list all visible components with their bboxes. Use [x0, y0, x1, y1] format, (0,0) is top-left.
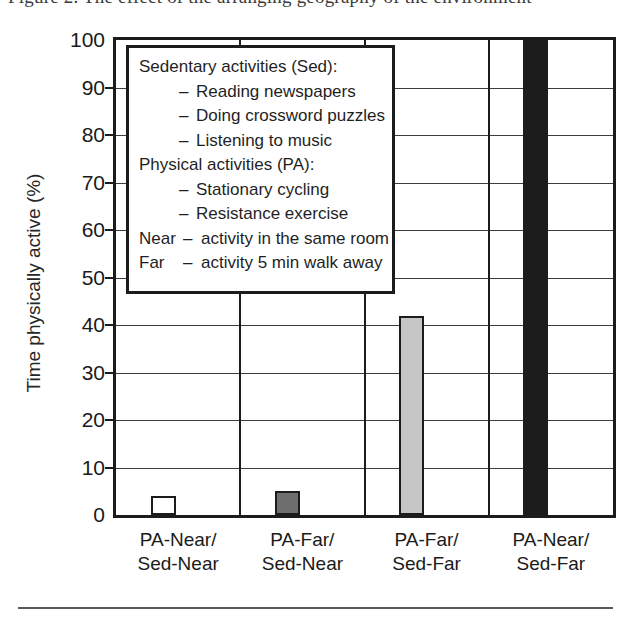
x-axis-label-2-line1: PA-Far/	[365, 528, 489, 552]
x-axis-label-3: PA-Near/Sed-Far	[489, 528, 613, 576]
legend-sedentary-item-2: –Listening to music	[129, 129, 392, 154]
x-axis-label-3-line1: PA-Near/	[489, 528, 613, 552]
bottom-separator-rule	[18, 607, 613, 609]
legend-definition-near: Near–activity in the same room	[129, 227, 392, 252]
legend-definition-near-term: Near	[139, 227, 183, 252]
y-tick-label-70: 70	[35, 172, 105, 193]
x-axis-label-1-line1: PA-Far/	[240, 528, 364, 552]
y-tick-label-30: 30	[35, 362, 105, 383]
figure-caption-text: Figure 2. The effect of the arranging ge…	[8, 0, 624, 8]
x-axis-label-2-line2: Sed-Far	[365, 552, 489, 576]
legend-box: Sedentary activities (Sed): –Reading new…	[126, 45, 395, 294]
legend-dash-icon: –	[183, 227, 201, 252]
legend-sedentary-item-0-label: Reading newspapers	[196, 82, 356, 101]
legend-definition-far-term: Far	[139, 251, 183, 276]
legend-definition-far: Far–activity 5 min walk away	[129, 251, 392, 276]
y-tick-label-10: 10	[35, 457, 105, 478]
legend-sedentary-item-0: –Reading newspapers	[129, 80, 392, 105]
x-axis-label-0-line1: PA-Near/	[116, 528, 240, 552]
legend-physical-item-1: –Resistance exercise	[129, 202, 392, 227]
y-tick-label-0: 0	[35, 504, 105, 525]
bar-0	[151, 496, 176, 515]
legend-dash-icon: –	[179, 104, 196, 129]
y-tick-label-40: 40	[35, 314, 105, 335]
legend-physical-item-1-label: Resistance exercise	[196, 204, 348, 223]
legend-sedentary-item-1-label: Doing crossword puzzles	[196, 106, 385, 125]
y-tick-label-50: 50	[35, 267, 105, 288]
y-tick-label-100: 100	[35, 29, 105, 50]
y-tick-label-60: 60	[35, 219, 105, 240]
figure-caption-strip: Figure 2. The effect of the arranging ge…	[0, 0, 632, 14]
x-axis-label-1-line2: Sed-Near	[240, 552, 364, 576]
legend-definition-near-text: activity in the same room	[201, 227, 389, 252]
y-tick-label-20: 20	[35, 409, 105, 430]
x-axis-label-3-line2: Sed-Far	[489, 552, 613, 576]
legend-dash-icon: –	[179, 178, 196, 203]
legend-dash-icon: –	[179, 80, 196, 105]
legend-physical-item-0-label: Stationary cycling	[196, 180, 329, 199]
legend-dash-icon: –	[179, 129, 196, 154]
x-axis-label-1: PA-Far/Sed-Near	[240, 528, 364, 576]
x-axis-label-2: PA-Far/Sed-Far	[365, 528, 489, 576]
category-divider-3	[488, 40, 490, 515]
legend-physical-heading: Physical activities (PA):	[129, 153, 392, 178]
legend-sedentary-heading: Sedentary activities (Sed):	[129, 55, 392, 80]
legend-sedentary-item-1: –Doing crossword puzzles	[129, 104, 392, 129]
y-tick-label-80: 80	[35, 124, 105, 145]
legend-definition-far-text: activity 5 min walk away	[201, 251, 382, 276]
y-tick-label-90: 90	[35, 77, 105, 98]
bar-3	[523, 40, 548, 515]
legend-dash-icon: –	[183, 251, 201, 276]
legend-sedentary-item-2-label: Listening to music	[196, 131, 332, 150]
legend-dash-icon: –	[179, 202, 196, 227]
x-axis-label-0: PA-Near/Sed-Near	[116, 528, 240, 576]
x-axis-label-0-line2: Sed-Near	[116, 552, 240, 576]
bar-1	[275, 491, 300, 515]
legend-physical-item-0: –Stationary cycling	[129, 178, 392, 203]
bar-2	[399, 316, 424, 516]
